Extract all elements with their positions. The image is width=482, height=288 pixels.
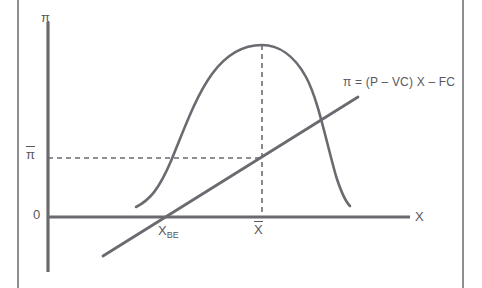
profit-diagram-plot [0, 0, 482, 288]
breakeven-subscript: BE [167, 230, 179, 240]
figure-container: π π 0 X XBE X π = (P – VC) X – FC [0, 0, 482, 288]
origin-label: 0 [33, 208, 40, 221]
x-bar-glyph: X [254, 223, 263, 236]
breakeven-tick-label: XBE [158, 224, 179, 240]
line-equation-annotation: π = (P – VC) X – FC [343, 76, 455, 88]
profit-curve [136, 45, 350, 207]
linear-profit-line [103, 97, 358, 256]
y-axis-label: π [41, 11, 50, 24]
breakeven-base: X [158, 223, 167, 238]
x-axis-label: X [415, 210, 424, 223]
y-reference-label: π [26, 148, 35, 161]
pi-bar-glyph: π [26, 148, 35, 161]
target-output-tick-label: X [254, 223, 263, 236]
